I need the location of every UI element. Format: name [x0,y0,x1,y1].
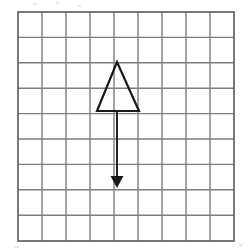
grid-cell[interactable] [138,164,162,189]
grid-cell[interactable] [210,88,234,113]
grid-cell[interactable] [162,164,186,189]
grid-cell[interactable] [186,164,210,189]
grid-cell[interactable] [42,88,66,113]
scan-speck [33,3,37,5]
grid-cell[interactable] [162,63,186,88]
grid-cell[interactable] [66,139,90,164]
grid-cell[interactable] [90,12,114,37]
grid-cell[interactable] [18,164,42,189]
grid-cell[interactable] [186,114,210,139]
grid-cell[interactable] [18,88,42,113]
grid-cell[interactable] [162,139,186,164]
grid-cell[interactable] [90,164,114,189]
grid-cell[interactable] [66,88,90,113]
grid-cell[interactable] [114,215,138,240]
scan-speck [239,244,242,247]
grid-cell[interactable] [210,190,234,215]
grid-cell[interactable] [162,114,186,139]
grid-cell[interactable] [42,139,66,164]
grid-cell[interactable] [66,37,90,62]
grid-cell[interactable] [210,215,234,240]
grid-cell[interactable] [66,114,90,139]
grid-cell[interactable] [42,164,66,189]
grid-cell[interactable] [90,114,114,139]
grid-cell[interactable] [18,215,42,240]
grid-cell[interactable] [90,139,114,164]
grid-cell[interactable] [210,63,234,88]
grid-cell[interactable] [186,215,210,240]
grid-cell[interactable] [210,12,234,37]
grid-cell[interactable] [90,190,114,215]
grid-cell[interactable] [90,37,114,62]
grid-cell[interactable] [138,63,162,88]
grid-cells [18,12,234,241]
grid-cell[interactable] [18,190,42,215]
grid-cell[interactable] [138,139,162,164]
grid-translation-diagram [0,0,250,252]
grid-cell[interactable] [186,63,210,88]
grid-cell[interactable] [18,63,42,88]
grid-cell[interactable] [210,139,234,164]
grid-cell[interactable] [186,88,210,113]
grid-cell[interactable] [138,114,162,139]
scan-speck [56,2,59,4]
grid-cell[interactable] [42,215,66,240]
grid-cell[interactable] [18,37,42,62]
grid-cell[interactable] [42,12,66,37]
grid-cell[interactable] [18,12,42,37]
grid-cell[interactable] [186,139,210,164]
grid-cell[interactable] [186,37,210,62]
grid-cell[interactable] [114,12,138,37]
grid-cell[interactable] [162,190,186,215]
grid-cell[interactable] [66,164,90,189]
grid-cell[interactable] [42,37,66,62]
grid-cell[interactable] [210,37,234,62]
grid-cell[interactable] [138,215,162,240]
grid-cell[interactable] [162,37,186,62]
grid-cell[interactable] [114,37,138,62]
grid-cell[interactable] [162,12,186,37]
grid-cell[interactable] [42,63,66,88]
grid-cell[interactable] [114,190,138,215]
grid-cell[interactable] [162,215,186,240]
grid-cell[interactable] [66,63,90,88]
grid-cell[interactable] [66,190,90,215]
grid-cell[interactable] [138,37,162,62]
grid-cell[interactable] [162,88,186,113]
scan-speck [14,246,19,248]
figure-root [0,0,250,252]
grid-cell[interactable] [18,114,42,139]
grid-cell[interactable] [138,190,162,215]
grid-cell[interactable] [18,139,42,164]
grid-cell[interactable] [90,215,114,240]
grid-cell[interactable] [138,88,162,113]
grid-cell[interactable] [66,215,90,240]
grid-cell[interactable] [186,12,210,37]
grid-cell[interactable] [210,114,234,139]
grid-cell[interactable] [42,114,66,139]
grid-cell[interactable] [42,190,66,215]
grid-cell[interactable] [138,12,162,37]
grid-cell[interactable] [210,164,234,189]
grid-cell[interactable] [186,190,210,215]
scan-speck [78,5,81,7]
grid-cell[interactable] [66,12,90,37]
